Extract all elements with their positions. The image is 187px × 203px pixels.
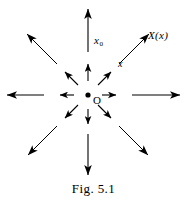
figure-caption: Fig. 5.1 <box>0 181 187 197</box>
label-x-zero-subscript: 0 <box>99 40 103 48</box>
label-X-of-x: X(x) <box>148 30 168 41</box>
ray-southwest-inner-arrow <box>65 105 78 118</box>
label-x-vector: x <box>118 59 122 69</box>
figure-container: x0 x X(x) O Fig. 5.1 <box>0 0 187 203</box>
label-x-zero: x0 <box>94 35 102 46</box>
origin-point-dot <box>85 92 90 97</box>
ray-southwest-outer-arrow <box>28 126 57 155</box>
ray-southeast-outer-arrow <box>119 126 148 155</box>
ray-southeast <box>98 105 148 155</box>
ray-northeast-inner-arrow <box>98 72 111 85</box>
ray-northwest-inner-arrow <box>65 72 78 85</box>
ray-northeast-outer-arrow <box>119 34 149 64</box>
ray-northeast <box>98 34 149 85</box>
vector-field-diagram <box>0 0 187 185</box>
ray-southeast-inner-arrow <box>98 105 111 118</box>
ray-southwest <box>28 105 78 155</box>
ray-northwest-outer-arrow <box>27 34 57 64</box>
ray-northwest <box>27 34 78 85</box>
label-origin-O: O <box>93 95 101 106</box>
